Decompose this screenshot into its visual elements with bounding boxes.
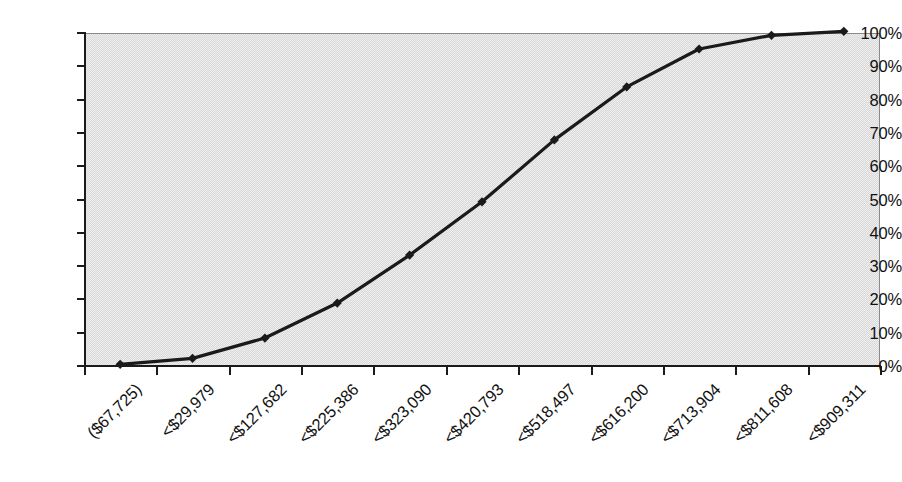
y-axis-tick-mark (77, 132, 85, 134)
x-axis-tick-label: <$518,497 (512, 380, 580, 448)
x-axis-tick-label: <$811,608 (730, 380, 797, 447)
x-axis-label-group: ($67,725)<$29,979<$127,682<$225,386<$323… (0, 366, 902, 482)
y-axis-tick-label: 70% (830, 125, 902, 142)
y-axis-tick-label: 30% (830, 258, 902, 275)
x-axis-tick-label: <$420,793 (440, 380, 508, 448)
y-axis-tick-mark (77, 65, 85, 67)
x-axis-tick-label: ($67,725) (83, 380, 145, 442)
y-axis-tick-label: 40% (830, 225, 902, 242)
y-axis-tick-label: 10% (830, 324, 902, 341)
y-axis-tick-mark (77, 265, 85, 267)
x-axis-tick-label: <$616,200 (585, 380, 653, 448)
y-axis-tick-mark (77, 298, 85, 300)
x-axis-tick-label: <$127,682 (223, 380, 291, 448)
y-axis-tick-label: 80% (830, 91, 902, 108)
x-axis-tick-label: <$323,090 (367, 380, 435, 448)
y-axis-tick-label: 50% (830, 191, 902, 208)
y-axis-tick-mark (77, 199, 85, 201)
y-axis-tick-label: 100% (830, 25, 902, 42)
x-axis-tick-label: <$909,311 (802, 380, 869, 447)
x-axis-tick-label: <$29,979 (157, 380, 218, 441)
x-axis-tick-label: <$713,904 (657, 380, 725, 448)
plot-area-background (84, 33, 880, 366)
y-axis-tick-mark (77, 232, 85, 234)
y-axis-tick-mark (77, 332, 85, 334)
x-axis-tick-label: <$225,386 (295, 380, 363, 448)
y-axis-tick-label: 20% (830, 291, 902, 308)
y-axis-tick-mark (77, 165, 85, 167)
cumulative-distribution-chart: 0%10%20%30%40%50%60%70%80%90%100% ($67,7… (0, 0, 902, 482)
y-axis-tick-mark (77, 32, 85, 34)
y-axis-tick-label: 90% (830, 58, 902, 75)
y-axis-tick-label: 60% (830, 158, 902, 175)
y-axis-tick-mark (77, 99, 85, 101)
